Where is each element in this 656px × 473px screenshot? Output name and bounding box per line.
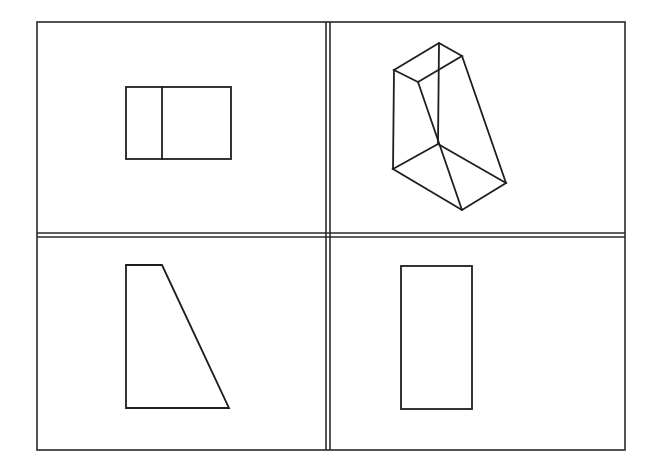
top-view-outline <box>126 87 231 159</box>
front-view-trapezoid <box>126 265 229 408</box>
isometric-right-slant-edge <box>462 56 506 183</box>
panel-top-left-top-view <box>126 87 231 159</box>
panel-bottom-left-front-view <box>126 265 229 408</box>
isometric-left-edge <box>393 70 394 169</box>
isometric-top-face <box>394 43 462 82</box>
isometric-bottom-face <box>393 144 506 210</box>
projection-diagram <box>0 0 656 473</box>
isometric-back-edge <box>438 43 439 144</box>
panel-bottom-right-side-view <box>401 266 472 409</box>
panel-top-right-isometric-view <box>393 43 506 210</box>
side-view-rectangle <box>401 266 472 409</box>
